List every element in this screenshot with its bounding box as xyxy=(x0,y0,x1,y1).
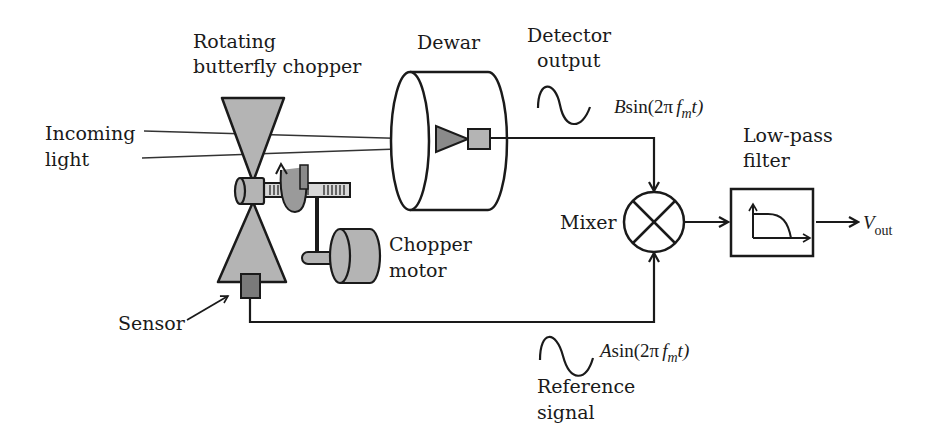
vout-label: Vout xyxy=(863,212,893,238)
sensor-label: Sensor xyxy=(118,312,186,334)
chopper-motor-label: Chopper motor xyxy=(389,233,473,281)
mixer-label: Mixer xyxy=(560,211,617,233)
reference-signal-line2: signal xyxy=(537,401,595,423)
incoming-light-line1: Incoming xyxy=(45,122,135,144)
sensor-block xyxy=(241,274,260,298)
sensor-pointer-arrow xyxy=(187,296,228,320)
filter-label-line1: Low-pass xyxy=(743,124,833,146)
reference-signal-line1: Reference xyxy=(537,375,635,397)
detector-output-line2: output xyxy=(537,49,601,71)
incoming-light-label: Incoming light xyxy=(45,122,135,170)
detector-signal-equation: Bsin(2πfmt) xyxy=(614,96,703,121)
dewar: Dewar xyxy=(391,31,507,210)
reference-signal-equation: Asin(2πfmt) xyxy=(598,340,689,365)
chopper-label-line1: Rotating xyxy=(193,30,276,52)
chopper-motor xyxy=(302,229,380,283)
chopper-label-line2: butterfly chopper xyxy=(193,55,362,77)
dewar-label: Dewar xyxy=(417,31,481,53)
chopper-label: Rotating butterfly chopper xyxy=(193,30,362,77)
reference-sine-icon xyxy=(540,337,593,376)
chopper-motor-line1: Chopper xyxy=(389,233,473,255)
reference-signal-label: Reference signal xyxy=(537,375,635,423)
lock-in-diagram: Rotating butterfly chopper Incoming ligh… xyxy=(0,0,949,441)
detector-wire xyxy=(490,138,654,191)
detector-sine-icon xyxy=(538,87,590,124)
filter-label-line2: filter xyxy=(743,149,791,171)
detector-output-label: Detector output xyxy=(527,24,612,71)
mixer xyxy=(624,192,684,252)
low-pass-filter-label: Low-pass filter xyxy=(743,124,833,171)
low-pass-filter xyxy=(731,189,813,256)
chopper-motor-line2: motor xyxy=(389,259,448,281)
detector-output-line1: Detector xyxy=(527,24,612,46)
incoming-light-line2: light xyxy=(45,148,90,170)
